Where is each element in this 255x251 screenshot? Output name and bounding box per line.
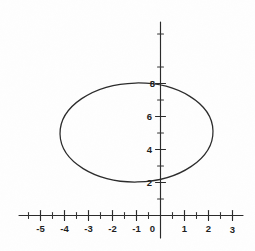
y-axis-tick-labels: 2 4 6 8 [147, 78, 155, 188]
x-tick-label-origin: 0 [150, 223, 155, 234]
x-tick-label: 2 [206, 223, 211, 234]
x-tick-label: -2 [108, 223, 116, 234]
y-tick-label: 2 [147, 177, 152, 188]
x-tick-label: 1 [182, 223, 188, 234]
x-tick-label: 3 [230, 224, 235, 235]
ellipse-figure: -5 -4 -3 -2 -1 0 1 2 3 2 4 6 8 [0, 0, 255, 251]
ellipse-curve [59, 81, 214, 183]
x-tick-label: -1 [132, 223, 141, 234]
y-tick-label: 8 [150, 78, 155, 89]
x-tick-label: -3 [84, 223, 92, 234]
y-tick-label: 4 [147, 144, 153, 155]
x-tick-label: -4 [60, 223, 69, 234]
x-tick-label: -5 [36, 223, 45, 234]
y-tick-label: 6 [147, 111, 152, 122]
x-axis-tick-labels: -5 -4 -3 -2 -1 0 1 2 3 [36, 223, 235, 235]
plot-canvas: -5 -4 -3 -2 -1 0 1 2 3 2 4 6 8 [0, 0, 255, 251]
